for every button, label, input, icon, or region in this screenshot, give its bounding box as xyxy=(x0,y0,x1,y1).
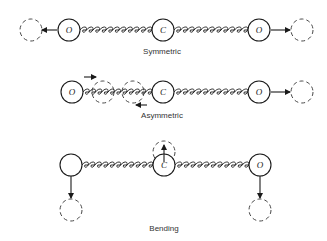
atom-label: C xyxy=(160,25,167,35)
displaced-atom-outline xyxy=(60,199,82,221)
mode-caption: Asymmetric xyxy=(141,111,183,120)
atom-label: C xyxy=(160,87,167,97)
mode-caption: Symmetric xyxy=(143,47,181,56)
displaced-atom-outline xyxy=(249,199,271,221)
atom-label: O xyxy=(66,25,73,35)
mode-bending: COBending xyxy=(60,141,271,233)
bond-spring xyxy=(80,27,152,32)
bond-spring xyxy=(175,162,249,167)
mode-symmetric: OCOSymmetric xyxy=(20,19,313,56)
mode-asymmetric: OCOAsymmetric xyxy=(61,77,313,120)
co2-vibration-modes-diagram: OCOSymmetricOCOAsymmetricCOBending xyxy=(0,0,327,241)
oxygen-atom xyxy=(60,154,82,176)
mode-caption: Bending xyxy=(149,224,178,233)
displaced-atom-outline xyxy=(291,19,313,41)
atom-label: O xyxy=(256,87,263,97)
bond-spring xyxy=(174,27,248,32)
displaced-atom-outline xyxy=(291,81,313,103)
atom-label: O xyxy=(69,87,76,97)
bond-spring xyxy=(82,162,153,167)
bond-spring xyxy=(174,89,248,94)
atom-label: O xyxy=(256,25,263,35)
displaced-atom-outline xyxy=(20,19,42,41)
bond-spring xyxy=(83,89,152,94)
atom-label: O xyxy=(257,160,264,170)
